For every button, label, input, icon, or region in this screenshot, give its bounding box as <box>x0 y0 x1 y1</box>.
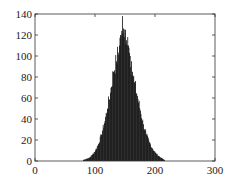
y-tick-label: 60 <box>21 92 33 104</box>
y-tick-label: 140 <box>16 8 33 20</box>
histogram-bars <box>83 16 165 161</box>
y-tick-label: 20 <box>21 134 33 146</box>
y-tick-label: 80 <box>21 71 33 83</box>
x-tick-label: 300 <box>207 164 224 176</box>
y-tick-label: 40 <box>21 113 33 125</box>
y-tick-label: 120 <box>16 29 33 41</box>
y-tick-label: 100 <box>16 50 33 62</box>
x-tick-label: 100 <box>87 164 104 176</box>
x-tick-label: 200 <box>147 164 164 176</box>
x-tick-label: 0 <box>32 164 38 176</box>
histogram-chart: 0204060801001201400100200300 <box>0 0 229 185</box>
